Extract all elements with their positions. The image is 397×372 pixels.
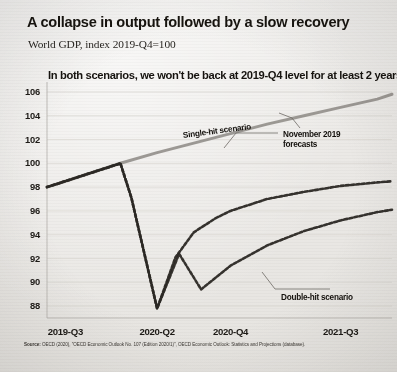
series-single-hit-scenario: [47, 163, 392, 308]
x-axis-tick-2020-q4: 2020-Q4: [194, 326, 268, 337]
y-axis-tick-102: 102: [14, 134, 40, 145]
annotation-november-line1: November 2019: [283, 130, 340, 140]
x-axis-tick-2020-q2: 2020-Q2: [120, 326, 194, 337]
y-axis-tick-98: 98: [14, 181, 40, 192]
source-text: OECD (2020), "OECD Economic Outlook No. …: [42, 341, 305, 347]
y-axis-tick-92: 92: [14, 253, 40, 264]
annotation-double-hit: Double-hit scenario: [281, 293, 353, 302]
y-axis-tick-100: 100: [14, 157, 40, 168]
annotation-november-forecasts: November 2019 forecasts: [283, 130, 340, 150]
y-axis-tick-104: 104: [14, 110, 40, 121]
y-axis-tick-96: 96: [14, 205, 40, 216]
source-note: Source: OECD (2020), "OECD Economic Outl…: [24, 341, 392, 347]
y-axis-tick-94: 94: [14, 229, 40, 240]
x-axis-tick-2021-q3: 2021-Q3: [304, 326, 378, 337]
y-axis-tick-106: 106: [14, 86, 40, 97]
chart-figure: A collapse in output followed by a slow …: [0, 0, 397, 372]
source-prefix: Source:: [24, 341, 41, 347]
chart-svg: [0, 0, 397, 372]
plot-area: [0, 0, 397, 372]
y-axis-tick-90: 90: [14, 276, 40, 287]
y-axis-tick-88: 88: [14, 300, 40, 311]
annotation-november-line2: forecasts: [283, 140, 340, 150]
x-axis-tick-2019-q3: 2019-Q3: [28, 326, 102, 337]
